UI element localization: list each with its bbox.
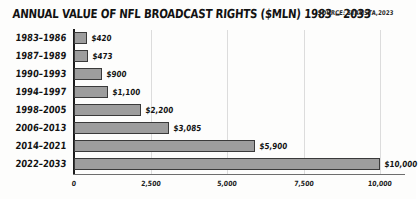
x-axis-line — [73, 174, 405, 175]
bar — [74, 140, 255, 152]
category-label: 1987–1989 — [15, 50, 67, 62]
bar — [74, 68, 102, 80]
bar — [74, 50, 88, 62]
bar-row: 2022–2033$10,000 — [0, 156, 416, 174]
bar-value-label: $420 — [91, 33, 112, 43]
chart-source-note: SOURCE: STATISTA,2023 — [317, 9, 393, 16]
bar-value-label: $900 — [106, 69, 127, 79]
category-label: 1998–2005 — [15, 104, 67, 116]
category-label: 2014–2021 — [15, 140, 67, 152]
bar-value-label: $3,085 — [173, 123, 202, 133]
bar-value-label: $2,200 — [146, 105, 175, 115]
bar-row: 1998–2005$2,200 — [0, 102, 416, 120]
bar — [74, 86, 108, 98]
bar-value-label: $473 — [93, 51, 114, 61]
category-label: 1990–1993 — [15, 68, 67, 80]
bar-row: 1983–1986$420 — [0, 30, 416, 48]
category-label: 1983–1986 — [15, 32, 67, 44]
plot-area: 1983–1986$4201987–1989$4731990–1993$9001… — [0, 28, 416, 199]
category-label: 1994–1997 — [15, 86, 67, 98]
bar — [74, 158, 380, 170]
category-label: 2006–2013 — [15, 122, 67, 134]
bar — [74, 122, 169, 134]
x-tick-label: 7,500 — [294, 179, 314, 187]
x-tick-label: 2,500 — [140, 179, 160, 187]
bar — [74, 32, 87, 44]
bar-row: 2014–2021$5,900 — [0, 138, 416, 156]
bar-row: 2006–2013$3,085 — [0, 120, 416, 138]
bar-row: 1994–1997$1,100 — [0, 84, 416, 102]
bar-row: 1987–1989$473 — [0, 48, 416, 66]
bar — [74, 104, 141, 116]
x-tick-label: 0 — [71, 179, 76, 187]
chart-header: ANNUAL VALUE OF NFL BROADCAST RIGHTS ($M… — [0, 0, 416, 28]
category-label: 2022–2033 — [15, 158, 67, 170]
x-tick-label: 5,000 — [217, 179, 237, 187]
x-tick-label: 10,000 — [368, 179, 393, 187]
bar-row: 1990–1993$900 — [0, 66, 416, 84]
bar-value-label: $5,900 — [259, 141, 288, 151]
bar-value-label: $10,000 — [385, 159, 418, 169]
bar-value-label: $1,100 — [112, 87, 141, 97]
